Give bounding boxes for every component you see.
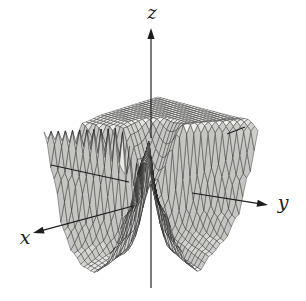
y-axis-positive-arrowhead-icon xyxy=(257,200,268,207)
z-axis-label: z xyxy=(146,2,157,23)
figure-canvas: x y z xyxy=(0,0,306,301)
z-axis-positive-arrowhead-icon xyxy=(147,28,154,39)
surface-plot: x y z xyxy=(0,0,306,301)
x-axis-positive-arrowhead-icon xyxy=(33,227,45,234)
y-axis-label: y xyxy=(277,191,289,213)
x-axis-label: x xyxy=(20,226,31,248)
